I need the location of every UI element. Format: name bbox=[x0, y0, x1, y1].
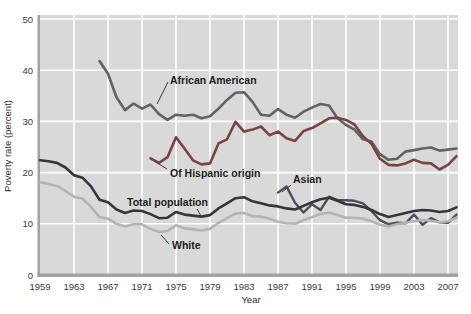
y-tick-40: 40 bbox=[22, 65, 33, 76]
poverty-rate-chart: African AmericanOf Hispanic originTotal … bbox=[0, 0, 471, 314]
x-tick-1959: 1959 bbox=[29, 281, 50, 292]
x-tick-1999: 1999 bbox=[369, 281, 390, 292]
label-hispanic: Of Hispanic origin bbox=[170, 167, 260, 179]
x-tick-1979: 1979 bbox=[199, 281, 220, 292]
x-tick-1963: 1963 bbox=[63, 281, 84, 292]
y-tick-0: 0 bbox=[28, 270, 33, 281]
label-african-american: African American bbox=[170, 74, 257, 86]
x-axis-line bbox=[38, 274, 459, 278]
x-tick-1983: 1983 bbox=[233, 281, 254, 292]
y-tick-30: 30 bbox=[22, 116, 33, 127]
x-tick-1967: 1967 bbox=[97, 281, 118, 292]
x-axis-tick-labels: 1959196319671971197519791983198719911995… bbox=[29, 281, 458, 292]
label-white: White bbox=[172, 239, 201, 251]
x-tick-1995: 1995 bbox=[335, 281, 356, 292]
x-tick-1975: 1975 bbox=[165, 281, 186, 292]
x-tick-1971: 1971 bbox=[131, 281, 152, 292]
x-axis-title: Year bbox=[241, 294, 260, 305]
y-axis-line bbox=[38, 15, 41, 277]
y-axis-title: Poverty rate (percent) bbox=[2, 100, 13, 192]
y-tick-20: 20 bbox=[22, 167, 33, 178]
x-tick-1991: 1991 bbox=[301, 281, 322, 292]
y-tick-10: 10 bbox=[22, 218, 33, 229]
y-axis-tick-labels: 01020304050 bbox=[22, 14, 33, 281]
x-tick-1987: 1987 bbox=[267, 281, 288, 292]
x-tick-2003: 2003 bbox=[403, 281, 424, 292]
plot-area: African AmericanOf Hispanic originTotal … bbox=[38, 15, 459, 277]
x-tick-2007: 2007 bbox=[437, 281, 458, 292]
label-total-population: Total population bbox=[127, 196, 208, 208]
chart-canvas: African AmericanOf Hispanic originTotal … bbox=[0, 0, 471, 314]
plot-background bbox=[40, 15, 458, 277]
y-tick-50: 50 bbox=[22, 14, 33, 25]
label-asian: Asian bbox=[293, 173, 322, 185]
